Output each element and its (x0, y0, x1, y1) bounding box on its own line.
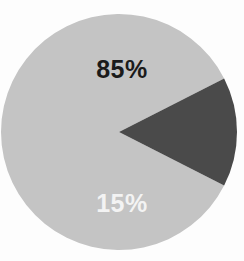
pie-chart: 85% 15% (0, 0, 244, 261)
pie-slice-minor-label: 15% (0, 191, 244, 216)
pie-slice-major-label: 85% (0, 57, 244, 82)
pie-chart-graphic (0, 0, 244, 261)
